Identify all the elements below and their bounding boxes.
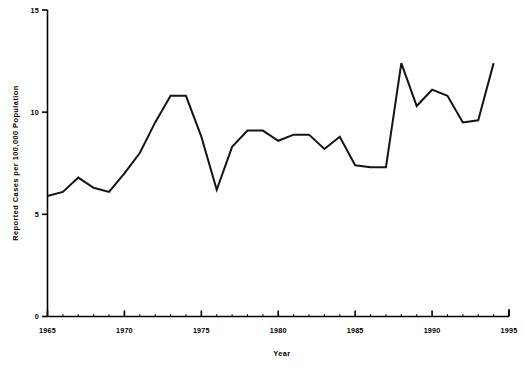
x-tick-label-1990: 1990 <box>424 326 441 335</box>
y-axis-title: Reported Cases per 100,000 Population <box>11 85 20 241</box>
chart-axes <box>48 10 510 317</box>
y-axis-ticks: 051015 <box>31 6 48 322</box>
chart-container: 051015 1965197019751980198519901995 Year… <box>0 0 524 369</box>
data-series-line <box>48 63 494 196</box>
x-tick-label-1965: 1965 <box>39 326 56 335</box>
line-chart: 051015 1965197019751980198519901995 Year… <box>0 0 524 369</box>
x-axis-ticks: 1965197019751980198519901995 <box>39 311 517 335</box>
x-tick-label-1970: 1970 <box>116 326 133 335</box>
y-tick-label-0: 0 <box>35 312 39 321</box>
x-tick-label-1995: 1995 <box>501 326 518 335</box>
y-tick-label-10: 10 <box>31 108 39 117</box>
x-tick-label-1975: 1975 <box>193 326 210 335</box>
x-axis-title: Year <box>273 349 290 358</box>
y-tick-label-5: 5 <box>35 210 39 219</box>
x-tick-label-1980: 1980 <box>270 326 287 335</box>
x-tick-label-1985: 1985 <box>347 326 364 335</box>
y-tick-label-15: 15 <box>31 6 39 15</box>
